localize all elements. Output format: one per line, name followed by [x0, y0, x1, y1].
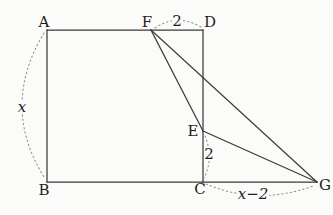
dim-label-CG: x−2 [238, 185, 269, 203]
vertex-label-C: C [194, 180, 205, 198]
segment-FE [151, 30, 203, 131]
dim-label-EC-2: 2 [204, 145, 214, 163]
figure-svg: ABCDEFGx22x−2 [0, 0, 333, 215]
vertex-label-E: E [188, 122, 199, 140]
dim-label-FD-2: 2 [172, 12, 182, 30]
vertex-label-D: D [204, 13, 216, 31]
segment-FG [151, 30, 317, 182]
vertex-label-A: A [38, 13, 50, 31]
segment-EG [203, 131, 317, 182]
geometry-figure: ABCDEFGx22x−2 [0, 0, 333, 215]
dim-label-x: x [18, 98, 27, 116]
vertex-label-B: B [38, 181, 49, 199]
vertex-label-G: G [319, 176, 331, 194]
vertex-label-F: F [142, 13, 152, 31]
